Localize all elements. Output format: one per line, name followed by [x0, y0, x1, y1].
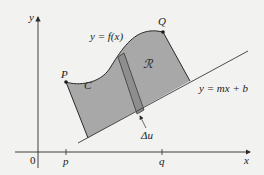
y-axis-label: y [29, 12, 34, 23]
function-label: y = f(x) [90, 31, 123, 42]
line-label: y = mx + b [199, 83, 248, 94]
strip-delta-u-label: Δu [141, 130, 153, 141]
x-tick-q-label: q [159, 156, 165, 167]
origin-label: 0 [30, 155, 36, 166]
point-q [161, 30, 165, 34]
x-tick-p-label: p [63, 156, 69, 167]
curve-c-label: C [84, 80, 91, 91]
x-axis-label: x [244, 155, 249, 166]
point-q-label: Q [158, 16, 166, 27]
point-p-label: P [61, 69, 68, 80]
region-r-label: ℛ [143, 58, 153, 70]
delta-u-pointer [140, 116, 146, 128]
diagram-canvas: y 0 p q x P Q C y = f(x) ℛ y = mx + b Δu [0, 0, 264, 175]
point-p [64, 80, 68, 84]
